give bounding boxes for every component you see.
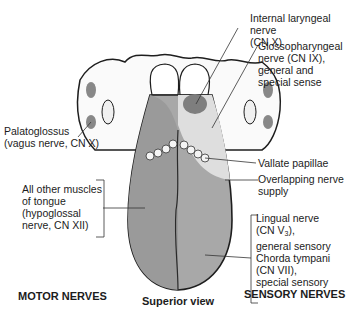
palatoglossus-spot: [263, 115, 273, 129]
label-palatoglossus: Palatoglossus (vagus nerve, CN X): [4, 125, 99, 149]
motor-nerves-header: MOTOR NERVES: [18, 290, 107, 302]
tonsil-right: [244, 100, 256, 124]
label-vallate-papillae: Vallate papillae: [258, 157, 328, 169]
internal-laryngeal-region: [183, 94, 207, 114]
label-glossopharyngeal: Glossopharyngeal nerve (CN IX), general …: [258, 40, 343, 88]
lingual-line1: Lingual nerve: [256, 212, 319, 224]
label-lingual-nerve: Lingual nerve(CN V3),general sensory Cho…: [256, 212, 331, 288]
lingual-cn: (CN V: [256, 224, 285, 236]
epiglottis-left: [150, 64, 178, 95]
lingual-cn-close: ),: [289, 224, 295, 236]
tongue-innervation-figure: Internal laryngeal nerve (CN X) Glossoph…: [0, 0, 355, 313]
view-label: Superior view: [142, 295, 214, 307]
epiglottis-right: [180, 64, 210, 95]
label-overlapping-supply: Overlapping nerve supply: [258, 173, 344, 197]
palatoglossus-spot: [86, 82, 96, 98]
tonsil-left: [102, 100, 114, 124]
label-other-muscles: All other muscles of tongue (hypoglossal…: [22, 183, 102, 231]
lingual-rest: general sensory Chorda tympani (CN VII),…: [256, 240, 331, 288]
sensory-nerves-header: SENSORY NERVES: [244, 288, 345, 300]
